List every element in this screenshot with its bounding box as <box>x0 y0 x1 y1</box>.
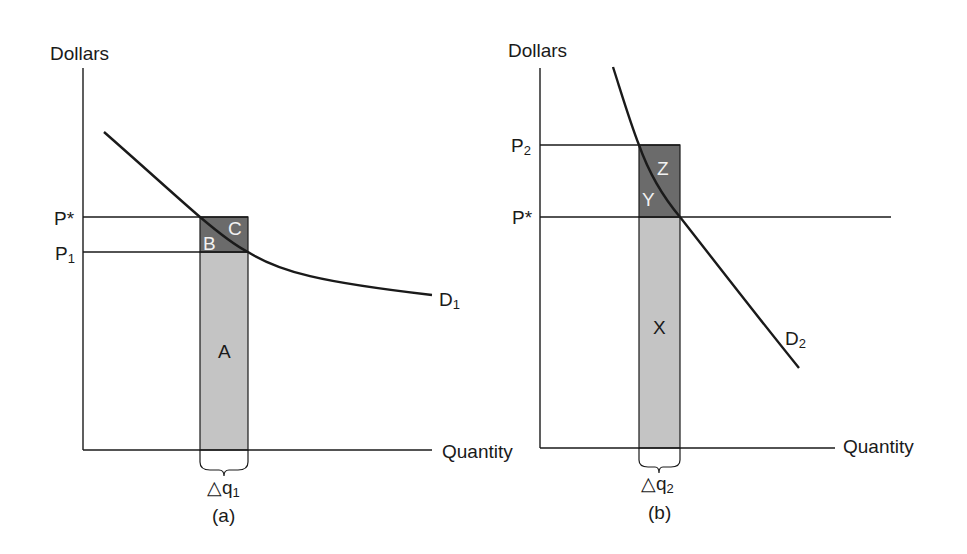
demand-curve-d1 <box>104 132 432 295</box>
area-x-label: X <box>653 318 666 337</box>
y-axis-label-b: Dollars <box>508 41 567 60</box>
caption-b: (b) <box>648 503 671 522</box>
area-c-label: C <box>228 219 242 238</box>
p2-label: P2 <box>511 136 531 157</box>
area-z-label: Z <box>657 159 669 178</box>
p-star-label-b: P* <box>512 208 532 227</box>
area-a-label: A <box>218 342 231 361</box>
diagram-canvas <box>0 0 967 554</box>
p1-main: P <box>55 243 68 264</box>
area-y-label: Y <box>642 190 655 209</box>
p1-label: P1 <box>55 244 75 265</box>
p-star-label-a: P* <box>54 209 74 228</box>
delta-q2-label: △q2 <box>641 474 674 495</box>
p1-sub: 1 <box>68 251 75 266</box>
panel-a <box>83 68 432 476</box>
x-axis-label-b: Quantity <box>843 437 914 456</box>
panel-b <box>540 67 891 473</box>
area-b-label: B <box>203 234 216 253</box>
x-axis-label-a: Quantity <box>442 442 513 461</box>
d1-label: D1 <box>439 290 460 311</box>
delta-q1-label: △q1 <box>207 478 240 499</box>
d2-label: D2 <box>785 329 806 350</box>
brace-b <box>639 448 680 473</box>
brace-a <box>200 450 248 476</box>
y-axis-label-a: Dollars <box>50 44 109 63</box>
caption-a: (a) <box>212 506 235 525</box>
